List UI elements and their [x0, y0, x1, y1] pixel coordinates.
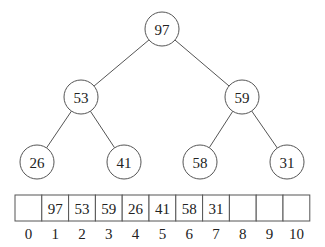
- heap-diagram: 97535926415831 97535926415831 0123456789…: [0, 0, 325, 247]
- array-index-label: 0: [25, 226, 33, 242]
- array-cell-value: 53: [75, 201, 90, 217]
- array-index-label: 8: [239, 226, 247, 242]
- array-index-label: 10: [289, 226, 304, 242]
- array-cell-value: 59: [101, 201, 116, 217]
- array-cell-value: 26: [128, 201, 144, 217]
- tree-node: 53: [64, 80, 98, 114]
- array-index-label: 5: [159, 226, 167, 242]
- tree-node: 58: [183, 145, 217, 179]
- array-indices: 012345678910: [25, 226, 304, 242]
- tree-node: 97: [145, 12, 179, 46]
- array-index-label: 2: [78, 226, 86, 242]
- array-index-label: 9: [266, 226, 274, 242]
- tree-node: 59: [225, 80, 259, 114]
- tree-nodes: 97535926415831: [20, 12, 304, 179]
- array-cell: [15, 195, 42, 221]
- array-cell: [283, 195, 310, 221]
- tree-edge: [252, 111, 278, 148]
- array-cell-value: 41: [155, 201, 170, 217]
- array-cell-box: [15, 195, 42, 221]
- array-cell: 59: [95, 195, 122, 221]
- node-value: 26: [30, 155, 46, 171]
- node-value: 97: [155, 22, 171, 38]
- array-cell-value: 58: [182, 201, 197, 217]
- tree-node: 41: [107, 145, 141, 179]
- array-cell: 41: [149, 195, 176, 221]
- node-value: 58: [193, 155, 208, 171]
- node-value: 41: [117, 155, 132, 171]
- array-cell: [256, 195, 283, 221]
- tree-edge: [175, 40, 229, 86]
- array-index-label: 4: [132, 226, 140, 242]
- node-value: 31: [280, 155, 295, 171]
- array-cell-box: [283, 195, 310, 221]
- tree-edge: [47, 111, 72, 148]
- array-cell-box: [256, 195, 283, 221]
- array-cell-box: [229, 195, 256, 221]
- array-cell: 31: [203, 195, 230, 221]
- node-value: 53: [74, 90, 89, 106]
- array-cell: 53: [69, 195, 96, 221]
- array-cell: [229, 195, 256, 221]
- array-cell-value: 97: [48, 201, 64, 217]
- array-index-label: 3: [105, 226, 113, 242]
- array-cell-value: 31: [209, 201, 224, 217]
- tree-node: 31: [270, 145, 304, 179]
- tree-edge: [94, 40, 149, 86]
- array-index-label: 1: [51, 226, 59, 242]
- node-value: 59: [235, 90, 250, 106]
- array-cell: 26: [122, 195, 149, 221]
- array-index-label: 6: [185, 226, 193, 242]
- tree-edge: [209, 111, 233, 147]
- tree-edge: [90, 111, 114, 148]
- tree-node: 26: [20, 145, 54, 179]
- array-index-label: 7: [212, 226, 220, 242]
- array-cell: 58: [176, 195, 203, 221]
- heap-array: 97535926415831: [15, 195, 310, 221]
- array-cell: 97: [42, 195, 69, 221]
